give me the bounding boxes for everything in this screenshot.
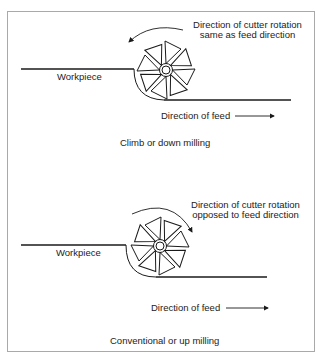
- caption-climb-milling: Climb or down milling: [120, 138, 210, 148]
- rotation-label-line2: opposed to feed direction: [178, 210, 313, 220]
- workpiece-label: Workpiece: [56, 248, 101, 258]
- rotation-label: Direction of cutter rotation opposed to …: [178, 200, 313, 220]
- rotation-arrow-ccw-icon: [129, 28, 183, 42]
- cut-path-arc: [126, 245, 156, 277]
- milling-cutter-icon: [135, 39, 197, 101]
- conventional-milling-panel: [21, 208, 268, 308]
- milling-cutter-icon: [129, 215, 191, 277]
- workpiece-label: Workpiece: [57, 72, 102, 82]
- rotation-label: Direction of cutter rotation same as fee…: [180, 20, 315, 40]
- feed-label: Direction of feed: [151, 303, 220, 313]
- rotation-label-line2: same as feed direction: [180, 30, 315, 40]
- caption-conventional-milling: Conventional or up milling: [110, 336, 219, 346]
- feed-label: Direction of feed: [161, 111, 230, 121]
